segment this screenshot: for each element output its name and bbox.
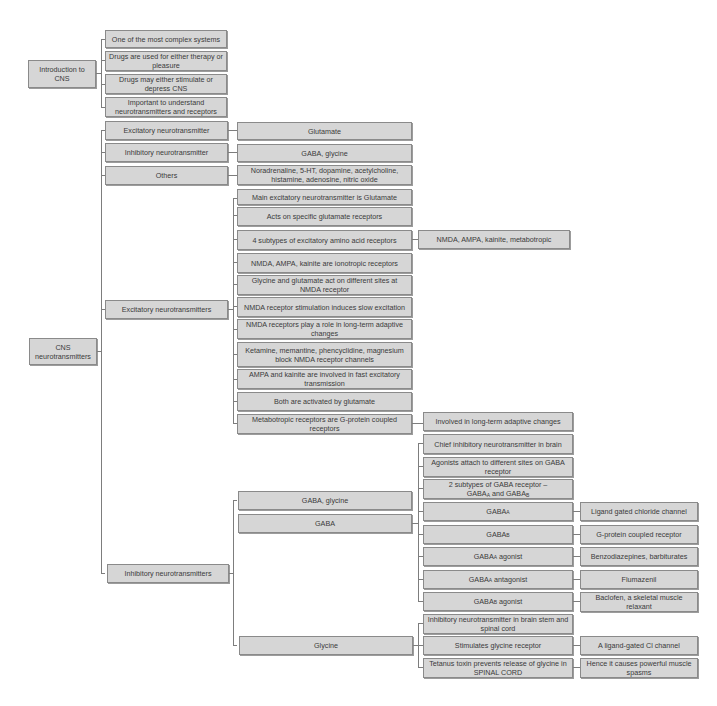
gaba-b-detail: G-protein coupled receptor <box>580 525 698 544</box>
intro-item: Important to understand neurotransmitter… <box>105 97 227 117</box>
excitatory-item: Main excitatory neurotransmitter is Glut… <box>237 189 412 205</box>
intro-item: Drugs may either stimulate or depress CN… <box>105 74 227 94</box>
connector <box>573 511 580 512</box>
suffix: antagonist <box>492 575 527 584</box>
glycine-item: Stimulates glycine receptor <box>423 636 573 655</box>
gaba-item-gaba-b: GABAB <box>423 525 573 544</box>
intro-root-node: Introduction to CNS <box>28 60 96 88</box>
label: GABA <box>486 530 506 539</box>
gaba-node: GABA <box>238 514 412 533</box>
connector <box>228 130 237 131</box>
label: GABA <box>469 575 489 584</box>
category-inhibitory-value: GABA, glycine <box>237 144 412 162</box>
gaba-item-a-agonist: GABAA agonist <box>423 547 573 566</box>
cns-root-node: CNS neurotransmitters <box>29 338 97 365</box>
excitatory-item: Both are activated by glutamate <box>237 392 412 411</box>
connector <box>412 423 423 424</box>
gaba-item-chief: Chief inhibitory neurotransmitter in bra… <box>423 434 573 454</box>
connector <box>228 175 237 176</box>
glycine-item: Inhibitory neurotransmitter in brain ste… <box>423 614 573 634</box>
glycine-node: Glycine <box>239 636 413 655</box>
excitatory-node: Excitatory neurotransmitters <box>105 300 228 319</box>
connector <box>573 667 580 668</box>
connector <box>573 579 580 580</box>
and-gaba-text: and GABA <box>490 489 526 498</box>
gaba-b-agonist-detail: Baclofen, a skeletal muscle relaxant <box>580 592 698 612</box>
intro-item: Drugs are used for either therapy or ple… <box>105 51 227 71</box>
gaba-a-text: GABA <box>467 489 487 498</box>
label: GABA <box>486 507 506 516</box>
category-others: Others <box>105 166 228 185</box>
gaba-item-a-antagonist: GABAA antagonist <box>423 570 573 589</box>
gaba-a-detail: Ligand gated chloride channel <box>580 502 698 521</box>
subtypes-detail: NMDA, AMPA, kainite, metabotropic <box>418 230 570 249</box>
connector <box>233 500 237 501</box>
gaba-a-antagonist-detail: Flumazenil <box>580 570 698 589</box>
connector <box>233 198 234 423</box>
intro-item: One of the most complex systems <box>105 30 227 48</box>
gaba-item-agonists: Agonists attach to different sites on GA… <box>423 457 573 477</box>
connector <box>101 39 102 108</box>
excitatory-item: NMDA receptors play a role in long-term … <box>237 319 412 339</box>
connector <box>573 601 580 602</box>
gaba-item-subtypes: 2 subtypes of GABA receptor – GABAA and … <box>423 479 573 499</box>
inhibitory-node: Inhibitory neurotransmitters <box>107 564 229 583</box>
gaba-item-gaba-a: GABAA <box>423 502 573 521</box>
connector <box>101 130 102 574</box>
connector <box>228 152 237 153</box>
subtypes-line2: GABAA and GABAB <box>467 489 530 498</box>
excitatory-item: Glycine and glutamate act on different s… <box>237 275 412 295</box>
excitatory-item: NMDA, AMPA, kainite are ionotropic recep… <box>237 253 412 273</box>
excitatory-item: 4 subtypes of excitatory amino acid rece… <box>237 230 412 250</box>
connector <box>573 556 580 557</box>
connector <box>233 645 237 646</box>
connector <box>573 534 580 535</box>
excitatory-item: AMPA and kainite are involved in fast ex… <box>237 369 412 389</box>
category-inhibitory: Inhibitory neurotransmitter <box>105 143 228 162</box>
gaba-a-agonist-detail: Benzodiazepines, barbiturates <box>580 547 698 566</box>
excitatory-item: Ketamine, memantine, phencyclidine, magn… <box>237 342 412 367</box>
excitatory-item: Metabotropic receptors are G-protein cou… <box>237 414 412 434</box>
category-excitatory: Excitatory neurotransmitter <box>105 121 228 140</box>
subscript: B <box>526 492 529 498</box>
category-others-value: Noradrenaline, 5-HT, dopamine, acetylcho… <box>237 165 412 185</box>
category-excitatory-value: Glutamate <box>237 122 412 140</box>
connector <box>101 573 105 574</box>
label: GABA <box>474 552 494 561</box>
suffix: agonist <box>497 552 522 561</box>
subtypes-line1: 2 subtypes of GABA receptor – <box>449 480 548 489</box>
metabotropic-detail: Involved in long-term adaptive changes <box>423 412 573 431</box>
glycine-receptor-detail: A ligand-gated Cl channel <box>580 636 698 655</box>
excitatory-item: NMDA receptor stimulation induces slow e… <box>237 297 412 317</box>
tetanus-detail: Hence it causes powerful muscle spasms <box>580 658 698 678</box>
label: GABA <box>474 597 494 606</box>
connector <box>233 500 234 646</box>
gaba-glycine-node: GABA, glycine <box>238 491 412 510</box>
gaba-item-b-agonist: GABAB agonist <box>423 592 573 611</box>
excitatory-item: Acts on specific glutamate receptors <box>237 207 412 226</box>
glycine-item: Tetanus toxin prevents release of glycin… <box>423 658 573 678</box>
suffix: agonist <box>497 597 522 606</box>
connector <box>573 645 580 646</box>
